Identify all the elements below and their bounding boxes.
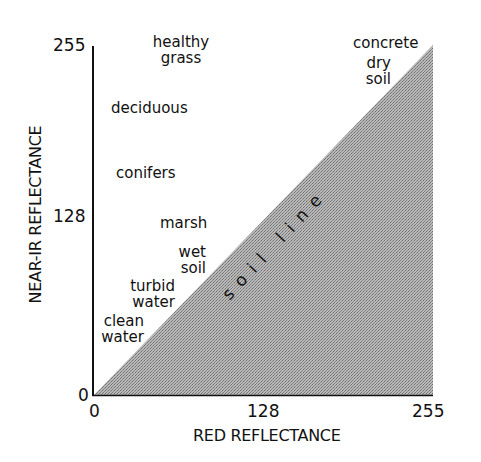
label-healthy-grass: healthy grass [146, 34, 216, 66]
x-tick-255: 255 [412, 402, 444, 420]
label-dry-soil-line1: dry [355, 55, 391, 71]
y-axis-title: NEAR-IR REFLECTANCE [26, 120, 45, 310]
x-tick-128: 128 [247, 402, 279, 420]
label-turbid-water-line1: turbid [123, 278, 175, 294]
label-turbid-water-line2: water [123, 294, 175, 310]
label-turbid-water: turbid water [123, 278, 175, 310]
label-wet-soil: wet soil [170, 244, 206, 276]
label-clean-water: clean water [96, 313, 144, 345]
label-clean-water-line2: water [96, 329, 144, 345]
y-tick-0: 0 [78, 386, 89, 404]
x-tick-0: 0 [89, 402, 100, 420]
label-healthy-grass-line2: grass [146, 50, 216, 66]
soil-region-triangle [94, 45, 433, 395]
label-healthy-grass-line1: healthy [146, 34, 216, 50]
x-axis-title: RED REFLECTANCE [193, 426, 341, 445]
label-wet-soil-line1: wet [170, 244, 206, 260]
label-dry-soil: dry soil [355, 55, 391, 87]
label-wet-soil-line2: soil [170, 260, 206, 276]
label-conifers: conifers [116, 165, 176, 181]
label-marsh: marsh [160, 215, 207, 231]
diagram-canvas [0, 0, 481, 462]
y-tick-128: 128 [53, 207, 85, 225]
label-dry-soil-line2: soil [355, 71, 391, 87]
label-deciduous: deciduous [111, 100, 188, 116]
label-concrete: concrete [353, 35, 418, 51]
label-clean-water-line1: clean [96, 313, 144, 329]
y-tick-255: 255 [53, 36, 85, 54]
